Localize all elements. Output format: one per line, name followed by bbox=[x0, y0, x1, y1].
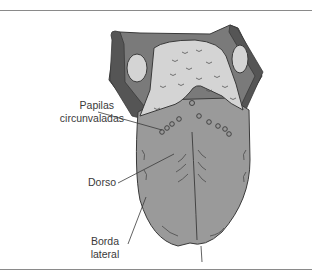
label-line: Dorso bbox=[74, 176, 116, 189]
label-borda-lateral: Borda lateral bbox=[90, 235, 120, 261]
tongue-body bbox=[136, 98, 250, 246]
left-tonsil bbox=[127, 54, 147, 82]
label-line: circunvaladas bbox=[44, 112, 124, 125]
tongue-diagram bbox=[0, 0, 312, 275]
label-line: Borda bbox=[90, 235, 120, 248]
label-papilas-circunvaladas: Papilas circunvaladas bbox=[44, 99, 124, 125]
right-tonsil bbox=[232, 45, 248, 73]
label-dorso: Dorso bbox=[74, 176, 116, 189]
label-line: Papilas bbox=[44, 99, 124, 112]
label-line: lateral bbox=[90, 248, 120, 261]
